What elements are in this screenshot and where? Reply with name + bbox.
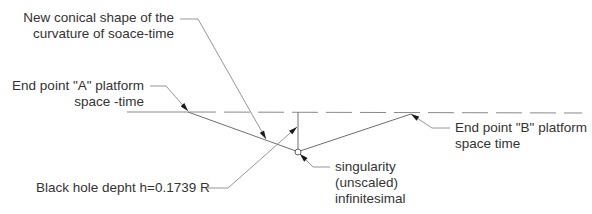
- end-point-a-label-line1: End point "A" platform: [12, 78, 144, 94]
- singularity-label-line1: singularity: [335, 159, 406, 175]
- conical-shape-label-line1: New conical shape of the: [23, 10, 174, 26]
- end-point-b-label: End point "B" platform space time: [455, 120, 587, 152]
- black-hole-depth-label-line1: Black hole depht h=0.1739 R: [36, 180, 210, 196]
- singularity-label: singularity (unscaled) infinitesimal: [335, 159, 406, 207]
- end-point-a-label-line2: space -time: [12, 94, 144, 110]
- singularity-label-line3: infinitesimal: [335, 191, 406, 207]
- end-point-b-label-line2: space time: [455, 136, 587, 152]
- singularity-label-line2: (unscaled): [335, 175, 406, 191]
- platform-baseline: [127, 112, 582, 113]
- conical-shape-label-line2: curvature of soace-time: [23, 26, 174, 42]
- end-point-a-label: End point "A" platform space -time: [12, 78, 144, 110]
- conical-shape-label: New conical shape of the curvature of so…: [23, 10, 174, 42]
- end-point-b-label-line1: End point "B" platform: [455, 120, 587, 136]
- black-hole-depth-label: Black hole depht h=0.1739 R: [36, 180, 210, 196]
- cone-lines: [188, 112, 411, 151]
